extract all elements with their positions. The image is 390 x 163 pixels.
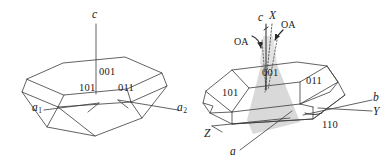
right-Z-axis-tick <box>212 126 222 132</box>
left-a1-axis-line <box>44 103 99 110</box>
left-a1-axis-symbol: a <box>32 101 38 113</box>
left-upper-right-facet <box>131 73 167 102</box>
right-face-label-001: 001 <box>262 68 278 79</box>
right-a-axis-label: a <box>230 146 236 158</box>
right-oa-right-arrow <box>275 30 283 40</box>
right-face-label-011: 011 <box>306 76 322 87</box>
left-a2-axis-symbol: a <box>177 101 183 113</box>
left-a2-axis-subscript: 2 <box>183 106 187 115</box>
left-face-label-011: 011 <box>118 83 134 94</box>
left-a1-axis-subscript: 1 <box>38 106 42 115</box>
left-bottom-crease-leftouter <box>47 107 58 127</box>
left-bottom-crease-right <box>131 102 142 118</box>
right-side-left-crease <box>210 112 232 113</box>
left-bottom-left <box>22 86 167 136</box>
right-Y-axis-label: Y <box>373 106 379 118</box>
figure-artwork <box>0 0 390 163</box>
left-c-axis-label: c <box>92 9 97 21</box>
left-a2-axis-label: a2 <box>177 102 187 114</box>
left-edge-left-b <box>58 95 64 107</box>
right-face-label-101: 101 <box>222 88 238 99</box>
left-face-label-001: 001 <box>99 67 115 78</box>
right-oa-left-arrow <box>252 36 261 48</box>
left-bottom-crease-left <box>58 107 95 136</box>
left-face-label-101: 101 <box>79 83 95 94</box>
right-Z-axis-label: Z <box>204 128 210 140</box>
right-face-label-110: 110 <box>322 120 338 131</box>
right-optic-axis-label-right: OA <box>281 20 295 30</box>
right-optic-axis-label-left: OA <box>234 37 248 47</box>
left-a1-axis-label: a1 <box>32 102 42 114</box>
right-b-axis-label: b <box>373 92 379 104</box>
left-crystal <box>22 24 178 136</box>
crystal-morphology-figure: c 001 101 011 a1 a2 c X OA OA 001 101 01… <box>0 0 390 163</box>
left-a2-axis-line <box>118 100 178 110</box>
right-c-axis-label: c <box>258 12 263 24</box>
right-X-axis-label: X <box>269 10 276 22</box>
right-front-wall-edge <box>300 104 313 107</box>
